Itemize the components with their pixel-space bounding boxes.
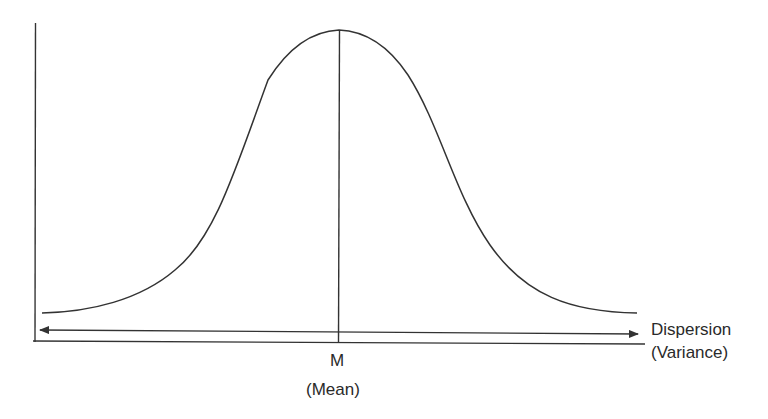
axis-label-variance: (Variance) [651,343,728,363]
mean-line [339,30,340,342]
axis-label-dispersion: Dispersion [651,320,731,340]
mean-label: M [330,351,344,371]
mean-caption: (Mean) [306,380,360,400]
y-axis [35,23,36,342]
